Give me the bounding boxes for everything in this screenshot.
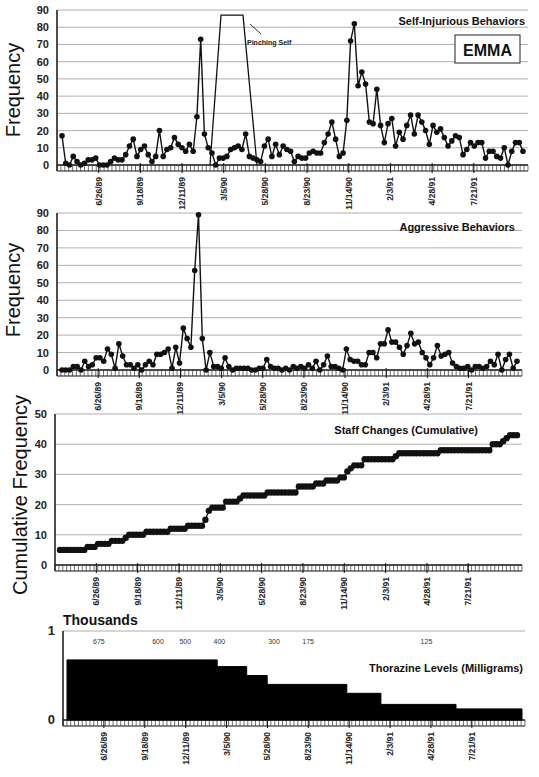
data-point — [374, 86, 380, 92]
y-axis-label-group: Cumulative Frequency — [9, 395, 31, 595]
step-label: 125 — [421, 638, 433, 645]
data-point — [172, 135, 178, 141]
subject-label: EMMA — [463, 42, 512, 59]
data-point — [412, 131, 418, 137]
x-tick-label-group: 3/5/90 — [215, 577, 225, 601]
data-point — [303, 155, 309, 161]
data-point — [198, 36, 204, 42]
x-tick-label: 3/5/90 — [219, 177, 229, 201]
data-point — [456, 135, 462, 141]
data-point — [498, 155, 504, 161]
data-point — [352, 21, 358, 27]
data-line — [62, 215, 517, 370]
data-point — [202, 131, 208, 137]
y-tick-label: 90 — [37, 207, 49, 219]
data-point — [363, 81, 369, 87]
data-point — [82, 358, 88, 364]
data-point — [258, 159, 264, 165]
x-tick-label: 9/18/89 — [133, 577, 143, 606]
data-point — [393, 143, 399, 149]
x-tick-label: 5/28/90 — [257, 577, 267, 606]
data-point — [446, 350, 452, 356]
data-point — [503, 357, 509, 363]
x-tick-label: 6/26/89 — [99, 732, 109, 761]
data-point — [404, 343, 410, 349]
y-tick-label: 60 — [37, 259, 49, 271]
y-tick-label: 70 — [37, 242, 49, 254]
data-point — [123, 152, 129, 158]
data-point — [108, 352, 114, 358]
data-point — [309, 365, 315, 371]
data-point — [507, 352, 513, 358]
data-line — [62, 24, 523, 165]
data-point — [93, 155, 99, 161]
data-point — [239, 147, 245, 153]
x-tick-label: 3/5/90 — [217, 382, 227, 406]
data-point — [355, 83, 361, 89]
data-point — [520, 148, 526, 154]
x-tick-label-group: 3/5/90 — [222, 732, 232, 756]
data-point — [510, 365, 516, 371]
y-tick-label: 30 — [35, 468, 47, 480]
x-tick-label: 11/14/90 — [344, 732, 354, 765]
data-point — [313, 358, 319, 364]
x-tick-label-group: 7/21/91 — [467, 732, 477, 761]
data-point — [419, 350, 425, 356]
data-point — [130, 136, 136, 142]
x-tick-label: 9/18/89 — [140, 732, 150, 761]
data-point — [139, 367, 145, 373]
y-tick-label: 40 — [37, 90, 49, 102]
data-point — [397, 345, 403, 351]
y-axis-label: Cumulative Frequency — [9, 395, 31, 595]
data-point — [112, 365, 118, 371]
data-point — [199, 523, 205, 529]
data-point — [408, 331, 414, 337]
y-tick-label: 90 — [37, 4, 49, 16]
data-point — [358, 462, 364, 468]
chart-title: Self-Injurious Behaviors — [398, 15, 525, 27]
data-point — [207, 350, 213, 356]
x-tick-label-group: 2/3/91 — [385, 177, 395, 201]
chart-title: Aggressive Behaviors — [399, 221, 515, 233]
data-point — [192, 268, 198, 274]
data-point — [127, 143, 133, 149]
x-tick-label: 6/26/89 — [91, 577, 101, 606]
pinching-self-plateau — [210, 15, 257, 165]
data-point — [224, 154, 230, 160]
x-tick-label-group: 11/14/90 — [344, 732, 354, 765]
x-tick-label: 8/23/90 — [298, 577, 308, 606]
x-tick-label-group: 8/23/90 — [298, 577, 308, 606]
data-point — [292, 489, 298, 495]
data-point — [101, 358, 107, 364]
data-point — [397, 129, 403, 135]
x-tick-label: 2/3/91 — [385, 732, 395, 756]
data-point — [194, 114, 200, 120]
x-tick-label-group: 12/11/89 — [181, 732, 191, 765]
data-point — [333, 136, 339, 142]
chart-canvas-staff-changes: 01020304050Cumulative Frequency6/26/899/… — [0, 405, 539, 605]
data-point — [445, 143, 451, 149]
data-point — [90, 362, 96, 368]
x-tick-label-group: 3/5/90 — [219, 177, 229, 201]
data-point — [400, 136, 406, 142]
y-tick-label: 50 — [37, 73, 49, 85]
data-point — [408, 112, 414, 118]
data-point — [184, 336, 190, 342]
x-tick-label-group: 5/28/90 — [262, 732, 272, 761]
data-point — [243, 131, 249, 137]
data-point — [222, 355, 228, 361]
data-point — [404, 123, 410, 129]
data-point — [449, 138, 455, 144]
data-point — [157, 128, 163, 134]
data-point — [292, 159, 298, 165]
y-tick-label: 80 — [37, 224, 49, 236]
x-tick-label-group: 2/3/91 — [381, 577, 391, 601]
data-point — [340, 367, 346, 373]
x-tick-label-group: 7/21/91 — [463, 577, 473, 606]
data-point — [199, 336, 205, 342]
data-point — [183, 148, 189, 154]
data-point — [153, 154, 159, 160]
data-point — [220, 504, 226, 510]
x-tick-label: 7/21/91 — [463, 577, 473, 606]
data-point — [423, 128, 429, 134]
